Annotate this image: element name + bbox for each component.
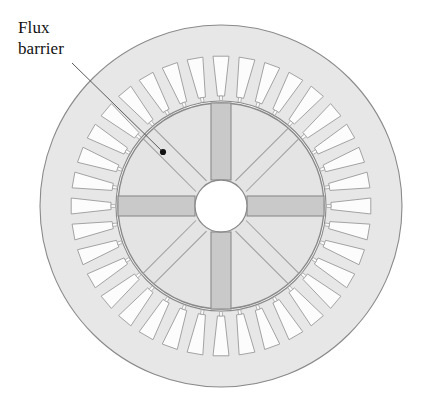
stator-slot-opening — [238, 310, 242, 315]
stator-slot-opening — [200, 97, 204, 102]
stator-slot-opening — [112, 185, 117, 189]
rotor-flux-barrier-radial — [247, 196, 324, 216]
rotor-flux-barrier-radial — [118, 196, 195, 216]
stator-slot-opening — [326, 205, 331, 208]
motor-cross-section-svg — [0, 0, 429, 411]
rotor-shaft-group — [195, 180, 247, 232]
stator-slot-opening — [238, 97, 242, 102]
stator-slot-opening — [220, 96, 223, 101]
flux-barrier-label: Flux barrier — [18, 18, 138, 59]
motor-cross-section-figure: Flux barrier — [0, 0, 429, 411]
rotor-flux-barrier-radial — [211, 103, 231, 180]
stator-slot-opening — [200, 310, 204, 315]
flux-barrier-marker-dot — [160, 149, 166, 155]
rotor-shaft-hole — [195, 180, 247, 232]
rotor-flux-barrier-radial — [211, 232, 231, 309]
stator-slot-opening — [220, 311, 223, 316]
stator-slot-opening — [112, 223, 117, 227]
stator-slot-opening — [325, 185, 330, 189]
stator-slot-opening — [325, 223, 330, 227]
stator-slot-opening — [111, 205, 116, 208]
